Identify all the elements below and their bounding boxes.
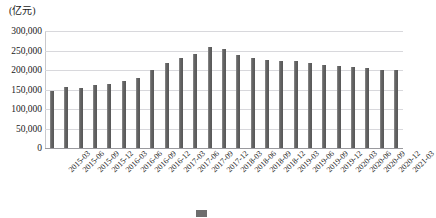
x-axis-tick-labels: 2015-032015-062015-092015-122016-032016-… xyxy=(45,149,403,201)
y-axis-tick-label: 200,000 xyxy=(1,65,45,75)
y-axis-tick-label: 100,000 xyxy=(1,104,45,114)
bar xyxy=(322,65,326,148)
y-axis-tick-label: 50,000 xyxy=(1,124,45,134)
bar xyxy=(394,70,398,148)
bar xyxy=(251,58,255,148)
bar xyxy=(279,61,283,148)
bar xyxy=(308,63,312,148)
chart-caption xyxy=(0,209,407,218)
y-axis-tick-label: 0 xyxy=(1,143,45,153)
bar xyxy=(50,91,54,148)
y-axis-tick-label: 250,000 xyxy=(1,46,45,56)
bar xyxy=(136,78,140,148)
bar xyxy=(222,49,226,148)
bar xyxy=(64,87,68,148)
bar xyxy=(122,81,126,148)
bar xyxy=(380,70,384,148)
bar xyxy=(107,84,111,148)
bar xyxy=(365,68,369,148)
bar xyxy=(179,58,183,148)
bar xyxy=(337,66,341,148)
plot-area xyxy=(45,31,403,148)
bar xyxy=(165,63,169,148)
bar xyxy=(208,47,212,148)
bar xyxy=(265,60,269,148)
bar xyxy=(236,55,240,148)
bar xyxy=(93,85,97,148)
y-axis-tick-label: 300,000 xyxy=(1,26,45,36)
bar xyxy=(193,54,197,148)
gridline xyxy=(45,31,403,32)
y-axis-tick-labels: 050,000100,000150,000200,000250,000300,0… xyxy=(0,0,45,218)
bar xyxy=(294,61,298,148)
bar xyxy=(351,67,355,149)
y-axis-tick-label: 150,000 xyxy=(1,85,45,95)
legend-swatch xyxy=(196,210,207,217)
bar xyxy=(79,88,83,148)
bar xyxy=(150,70,154,148)
